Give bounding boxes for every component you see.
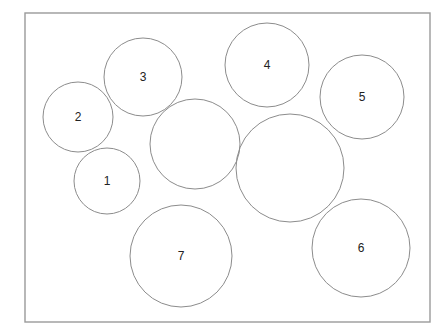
circle-2-label: 2 [75, 110, 82, 124]
circle-4-label: 4 [264, 58, 271, 72]
circle-3-label: 3 [140, 70, 147, 84]
circle-1-label: 1 [104, 174, 111, 188]
circle-packing-diagram: 1234567 [0, 0, 446, 335]
circle-6-label: 6 [358, 241, 365, 255]
circle-7-label: 7 [178, 249, 185, 263]
diagram-frame [25, 13, 430, 322]
circle-5-label: 5 [359, 90, 366, 104]
